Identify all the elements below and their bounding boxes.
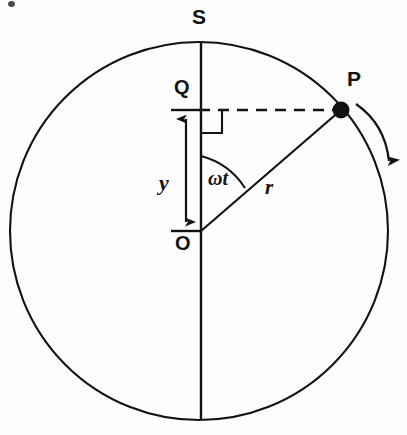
right-angle-marker: [201, 110, 222, 133]
label-p: P: [347, 68, 361, 89]
diagram-svg: [0, 0, 407, 435]
label-q: Q: [174, 77, 190, 97]
figure-canvas: · · · · · · · · · · · · · · · · · · · · …: [0, 0, 407, 435]
label-y: y: [159, 172, 169, 194]
label-o: O: [175, 233, 191, 253]
label-r: r: [265, 177, 273, 198]
label-omega-t: ωt: [208, 168, 228, 188]
particle-dot-p: [333, 102, 350, 119]
label-s: S: [192, 6, 206, 27]
